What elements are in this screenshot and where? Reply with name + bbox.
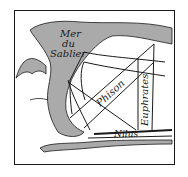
peninsula bbox=[16, 59, 46, 78]
river-label-euphrates: Euphrates bbox=[139, 74, 150, 127]
map-illustration: Mer du Sablier Phison Euphrates Nilus bbox=[0, 0, 188, 177]
southern-coast bbox=[40, 140, 172, 152]
sea-label-line3: Sablier bbox=[50, 48, 88, 59]
river-label-nilus: Nilus bbox=[113, 129, 138, 139]
sea-region bbox=[30, 21, 172, 136]
